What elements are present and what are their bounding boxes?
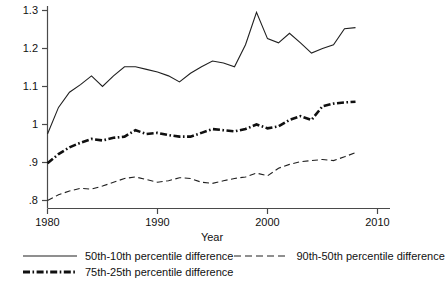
series-line-90th-50th xyxy=(48,153,356,201)
y-tick-label-6: .8 xyxy=(29,194,38,206)
x-tick-label-2000: 2000 xyxy=(255,216,279,228)
legend-item-50th-10th: 50th-10th percentile difference xyxy=(22,250,233,263)
legend-label-50th-10th: 50th-10th percentile difference xyxy=(85,250,233,263)
y-tick-label-4: 1 xyxy=(32,118,38,130)
y-tick-label-3: 1.1 xyxy=(23,80,38,92)
x-axis-title: Year xyxy=(201,231,224,243)
legend-row-2: 75th-25th percentile difference xyxy=(22,264,421,280)
series-line-50th-10th xyxy=(48,12,356,134)
legend-key-dashdot-icon xyxy=(22,266,78,278)
legend-item-90th-50th: 90th-50th percentile difference xyxy=(233,250,444,263)
x-axis-ticks xyxy=(48,209,378,215)
y-tick-label-5: .9 xyxy=(29,156,38,168)
legend-key-dashed-icon xyxy=(233,250,289,262)
x-tick-label-1980: 1980 xyxy=(35,216,59,228)
legend-label-90th-50th: 90th-50th percentile difference xyxy=(296,250,444,263)
y-tick-label-1: 1.3 xyxy=(23,4,38,16)
chart-legend: 50th-10th percentile difference 90th-50t… xyxy=(22,248,421,280)
line-chart-plot: 1.3 1.2 1.1 1 .9 .8 1980 1990 2000 2010 … xyxy=(0,0,421,245)
legend-label-75th-25th: 75th-25th percentile difference xyxy=(85,266,233,279)
legend-key-solid-icon xyxy=(22,250,78,262)
legend-item-75th-25th: 75th-25th percentile difference xyxy=(22,266,260,279)
y-tick-label-2: 1.2 xyxy=(23,42,38,54)
x-tick-label-2010: 2010 xyxy=(365,216,389,228)
series-line-75th-25th xyxy=(48,102,356,164)
x-tick-label-1990: 1990 xyxy=(145,216,169,228)
legend-row-1: 50th-10th percentile difference 90th-50t… xyxy=(22,248,421,264)
y-axis-ticks xyxy=(42,11,48,201)
